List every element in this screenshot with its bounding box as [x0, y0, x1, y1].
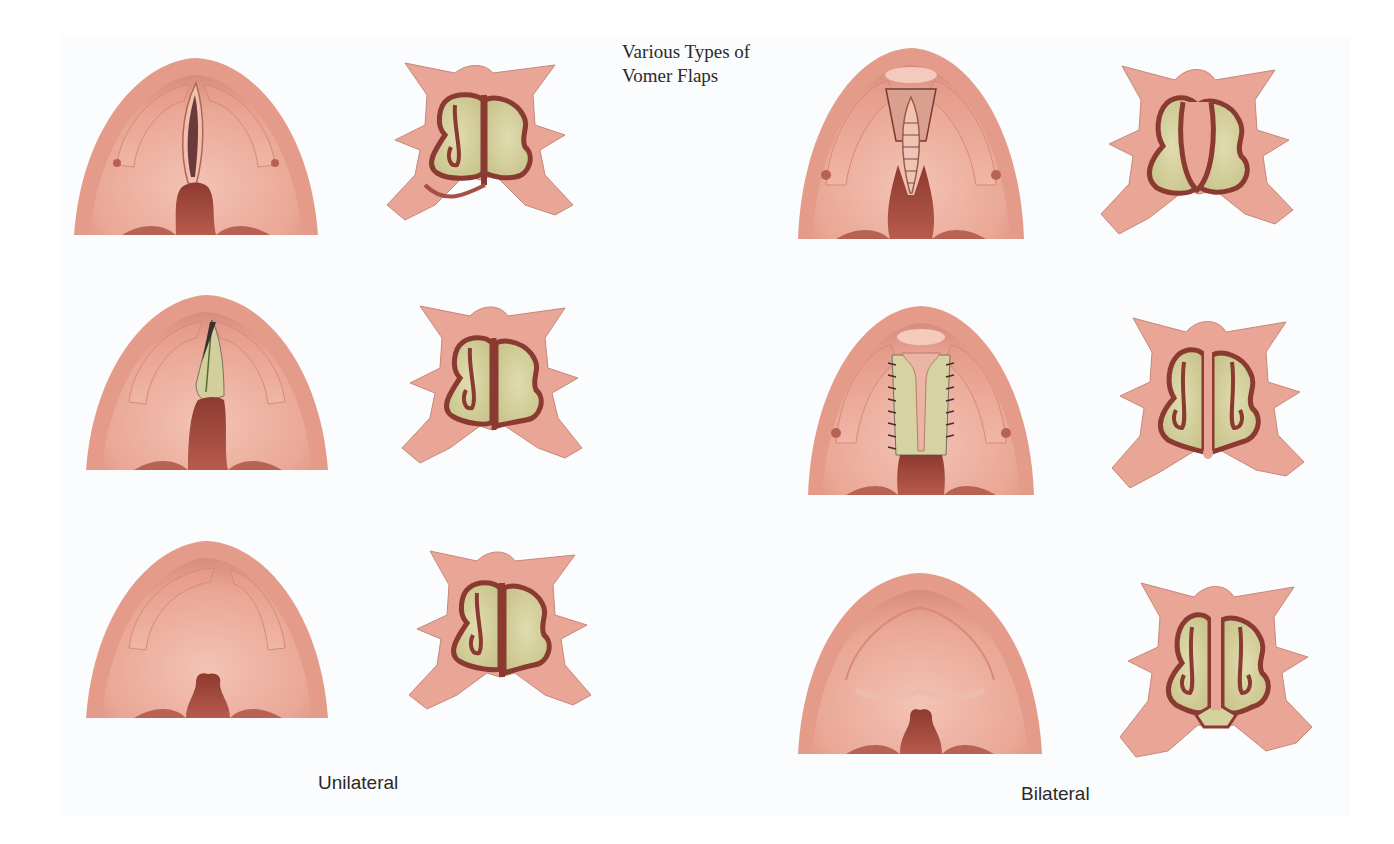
illustration-canvas: Various Types of Vomer Flaps [0, 0, 1394, 844]
caption-unilateral: Unilateral [318, 772, 398, 794]
nasal-cross-section-bilateral-3 [1116, 575, 1316, 763]
nasal-cross-section-bilateral-2 [1108, 310, 1308, 496]
caption-bilateral: Bilateral [1021, 783, 1090, 805]
title-line-1: Various Types of [622, 40, 812, 64]
palate-view-unilateral-3 [84, 538, 330, 720]
palate-view-unilateral-2 [84, 292, 330, 472]
nasal-cross-section-unilateral-1 [385, 55, 575, 230]
palate-view-bilateral-2 [806, 303, 1036, 497]
palate-view-bilateral-3 [796, 570, 1044, 756]
nasal-cross-section-unilateral-3 [405, 543, 595, 718]
figure-title: Various Types of Vomer Flaps [622, 40, 812, 88]
nasal-cross-section-bilateral-1 [1097, 58, 1297, 240]
palate-view-unilateral-1 [72, 55, 320, 237]
palate-view-bilateral-1 [796, 45, 1026, 241]
title-line-2: Vomer Flaps [622, 64, 812, 88]
nasal-cross-section-unilateral-2 [400, 298, 585, 470]
